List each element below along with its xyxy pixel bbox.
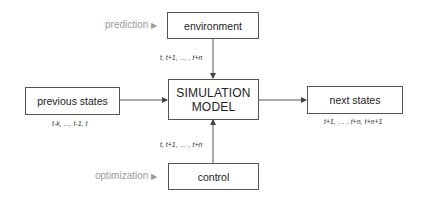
- prediction-label: prediction▶: [105, 19, 157, 30]
- control-edge-label: t, t+1, … , t+n: [160, 141, 202, 148]
- previous-states-sub-label: t-k, ..., t-1, t: [52, 120, 87, 127]
- previous-states-box: previous states: [25, 87, 120, 115]
- previous-states-label: previous states: [37, 95, 108, 107]
- prediction-text: prediction: [105, 19, 148, 30]
- control-box: control: [168, 163, 259, 190]
- play-triangle-icon: ▶: [151, 21, 157, 30]
- control-label: control: [198, 171, 230, 183]
- play-triangle-icon: ▶: [151, 172, 157, 181]
- simulation-model-box: SIMULATION MODEL: [168, 79, 259, 120]
- model-title-line1: SIMULATION: [176, 86, 250, 100]
- optimization-label: optimization▶: [95, 170, 157, 181]
- environment-edge-label: t, t+1, … , t+n: [160, 54, 202, 61]
- environment-label: environment: [184, 20, 242, 32]
- environment-box: environment: [167, 12, 259, 39]
- next-states-label: next states: [330, 94, 381, 106]
- next-states-box: next states: [307, 86, 403, 114]
- optimization-text: optimization: [95, 170, 148, 181]
- model-title-line2: MODEL: [192, 100, 236, 114]
- next-states-sub-label: t+1, … , t+n, t+n+1: [324, 118, 382, 125]
